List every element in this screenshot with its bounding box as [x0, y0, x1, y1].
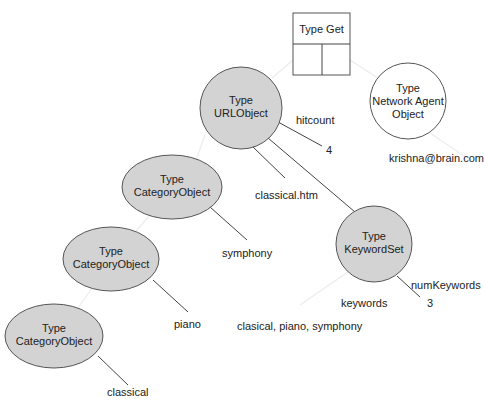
connector-get-to-url [272, 60, 293, 78]
url-value: classical.htm [255, 189, 318, 201]
edge-cat2-value [153, 280, 188, 312]
edge-cat1-value [210, 207, 247, 240]
node-network-agent: Type Network Agent Object [370, 63, 446, 139]
network-agent-label-line3: Object [392, 108, 424, 120]
type-get-box: Type Get [293, 13, 350, 75]
category-3-label-line2: CategoryObject [16, 335, 92, 347]
node-url-object: Type URLObject [200, 67, 282, 149]
network-agent-label-line2: Network Agent [372, 95, 444, 107]
keyword-set-label-line1: Type [362, 230, 386, 242]
url-object-label-line2: URLObject [214, 107, 268, 119]
type-get-title: Type Get [299, 23, 344, 35]
keywords-value: clasical, piano, symphony [237, 320, 363, 332]
node-category-3: Type CategoryObject [5, 304, 103, 368]
category-2-label-line2: CategoryObject [73, 258, 149, 270]
node-keyword-set: Type KeywordSet [336, 206, 412, 282]
hitcount-label: hitcount [296, 114, 335, 126]
edge-cat3-value [98, 356, 128, 385]
category-3-value: classical [107, 386, 149, 398]
numkeywords-label: numKeywords [411, 279, 481, 291]
category-3-label-line1: Type [42, 322, 66, 334]
hitcount-value: 4 [326, 144, 332, 156]
node-category-1: Type CategoryObject [122, 155, 222, 219]
keyword-set-label-line2: KeywordSet [344, 243, 403, 255]
node-category-2: Type CategoryObject [63, 227, 159, 291]
numkeywords-value: 3 [427, 297, 433, 309]
connector-cat2-to-cat3 [78, 288, 92, 308]
category-1-label-line1: Type [160, 173, 184, 185]
url-object-label-line1: Type [229, 94, 253, 106]
object-diagram: Type Get Type URLObject Type Network Age… [0, 0, 485, 406]
category-1-label-line2: CategoryObject [134, 186, 210, 198]
connector-get-to-agent [350, 60, 378, 78]
connector-url-to-cat1 [196, 135, 205, 160]
category-2-value: piano [174, 318, 201, 330]
connector-cat1-to-cat2 [136, 215, 150, 231]
network-agent-label-line1: Type [396, 82, 420, 94]
category-1-value: symphony [222, 247, 273, 259]
edge-url-value [253, 147, 285, 178]
category-2-label-line1: Type [99, 245, 123, 257]
keywords-label: keywords [341, 297, 388, 309]
agent-email-value: krishna@brain.com [389, 152, 484, 164]
